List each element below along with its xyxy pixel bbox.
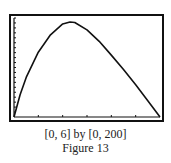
figure-label: Figure 13 (0, 141, 171, 155)
window-caption: [0, 6] by [0, 200] (0, 127, 171, 141)
graph-frame (10, 15, 163, 121)
calculator-graph (0, 0, 171, 125)
